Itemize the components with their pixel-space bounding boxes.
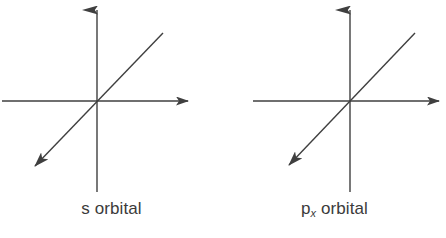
axes-diagram-px	[223, 0, 446, 200]
axes-diagram-s	[0, 0, 223, 200]
panel-s-orbital: s orbital	[0, 0, 223, 238]
panel-label-s-suffix: orbital	[90, 199, 142, 218]
panel-label-px-prefix: p	[301, 199, 311, 218]
panel-label-s-orbital: s orbital	[0, 198, 223, 220]
panel-label-px-orbital: px orbital	[223, 198, 446, 221]
diagonal-axis-line-px	[289, 33, 415, 165]
panel-label-px-suffix: orbital	[316, 199, 368, 218]
panel-px-orbital: px orbital	[223, 0, 446, 238]
panel-label-px-subscript: x	[311, 207, 317, 219]
panel-label-s-prefix: s	[81, 199, 90, 218]
orbital-axes-figure: s orbital px orbital	[0, 0, 446, 238]
diagonal-axis-line-s	[35, 33, 163, 166]
